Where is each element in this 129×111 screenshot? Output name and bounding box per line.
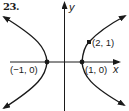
problem-number: 23. <box>3 2 19 12</box>
vertex-point-right <box>80 60 85 65</box>
point-label-1-0: (1, 0) <box>85 65 107 75</box>
point-2-1-marker <box>87 40 91 44</box>
point-label-neg1-0: (−1, 0) <box>10 65 38 75</box>
y-axis-label: y <box>69 2 75 13</box>
hyperbola-figure: 23. y x (−1, 0) (1, 0) (2, 1) <box>0 0 129 111</box>
graph-canvas <box>0 0 129 111</box>
point-label-2-1: (2, 1) <box>92 38 114 48</box>
x-axis-label: x <box>113 64 119 75</box>
left-branch-upper <box>4 17 47 62</box>
vertex-point-left <box>45 60 50 65</box>
